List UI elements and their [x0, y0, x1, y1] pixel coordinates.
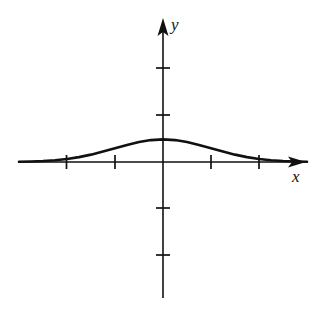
y-axis-label: y [171, 16, 179, 33]
graph-figure: y x [0, 0, 333, 315]
coordinate-plane [0, 0, 333, 315]
x-axis-label: x [292, 168, 300, 185]
